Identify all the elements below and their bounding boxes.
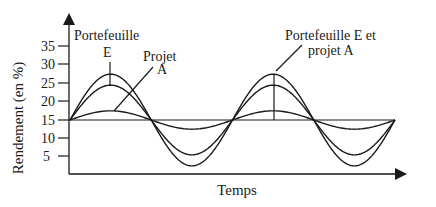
x-axis-arrow-icon: [395, 168, 407, 180]
tick-label-15: 15: [41, 113, 55, 128]
annotation-projet-a-line2: A: [157, 62, 168, 77]
leader-portefeuille-e-projet-a: [276, 45, 302, 71]
y-tick-labels: 35 30 25 20 15 10 5: [41, 39, 55, 164]
annotation-portefeuille-e-et-projet-a-line2: projet A: [308, 43, 354, 58]
tick-label-30: 30: [41, 57, 55, 72]
tick-label-20: 20: [41, 94, 55, 109]
tick-label-35: 35: [41, 39, 55, 54]
tick-label-25: 25: [41, 76, 55, 91]
chart: 35 30 25 20 15 10 5 Rendement (en %) Tem…: [0, 0, 436, 207]
annotation-portefeuille-e-line1: Portefeuille: [74, 28, 139, 43]
y-axis-label: Rendement (en %): [10, 62, 27, 174]
x-axis-label: Temps: [217, 182, 257, 198]
annotation-portefeuille-e-et-projet-a-line1: Portefeuille E et: [285, 28, 376, 43]
annotation-portefeuille-e-line2: E: [103, 45, 112, 60]
y-ticks: [58, 46, 69, 156]
y-axis-arrow-icon: [63, 13, 75, 25]
leader-projet-a: [114, 67, 153, 111]
tick-label-10: 10: [41, 131, 55, 146]
tick-label-5: 5: [43, 149, 50, 164]
